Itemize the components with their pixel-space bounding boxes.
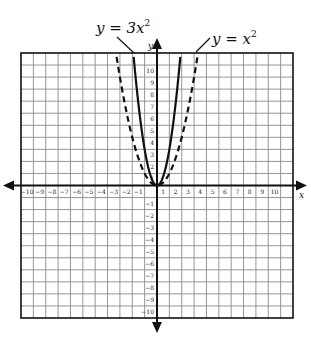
y-tick-label: −3 [145,224,154,231]
x-tick-label: 9 [260,188,264,195]
coordinate-plane-chart: xy −10−9−8−7−6−5−4−3−2−11234567891010987… [0,0,311,341]
y-tick-label: 4 [150,139,154,146]
y-tick-label: 3 [150,151,154,158]
y-tick-label: 6 [150,115,154,122]
y-tick-label: −8 [145,284,154,291]
x-tick-label: −1 [134,188,143,195]
y-tick-label: 7 [150,103,154,110]
x-tick-label: 8 [248,188,252,195]
x-axis-label: x [299,190,304,200]
y-tick-label: 5 [150,127,154,134]
x-tick-label: 4 [198,188,202,195]
x-tick-label: −2 [122,188,131,195]
y-tick-label: 8 [150,91,154,98]
y-tick-label: −1 [145,200,154,207]
y-tick-label: −5 [145,248,154,255]
y-tick-label: −6 [145,260,154,267]
y-axis-label: y [147,41,154,51]
curve-label-x-squared: y = x2 [211,29,257,48]
x-tick-label: −5 [85,188,94,195]
x-tick-label: 7 [235,188,239,195]
y-tick-label: −4 [145,236,154,243]
y-tick-label: 2 [150,163,154,170]
x-tick-label: 2 [174,188,178,195]
curve-label-3x-squared: y = 3x2 [95,18,150,37]
x-tick-label: −7 [60,188,69,195]
x-tick-label: −8 [47,188,56,195]
background [0,0,311,341]
y-tick-label: −10 [141,308,154,315]
y-tick-label: −7 [145,272,154,279]
x-tick-label: 10 [271,188,279,195]
y-tick-label: −2 [145,212,154,219]
x-tick-label: −9 [35,188,44,195]
x-tick-label: −6 [72,188,81,195]
x-tick-label: −4 [97,188,106,195]
x-tick-label: −3 [109,188,118,195]
x-tick-label: 1 [161,188,165,195]
x-tick-label: 5 [211,188,215,195]
x-tick-label: 6 [223,188,227,195]
x-tick-label: 3 [186,188,190,195]
y-tick-label: 10 [146,67,154,74]
y-tick-label: −9 [145,296,154,303]
x-tick-label: −10 [21,188,34,195]
y-tick-label: 9 [150,79,154,86]
